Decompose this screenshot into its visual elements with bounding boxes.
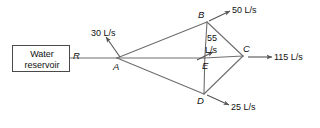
node-label-a: A [113,62,119,72]
reservoir-line-2: reservoir [24,60,59,71]
node-label-r: R [73,51,80,61]
flow-label-d-outflow: 25 L/s [231,102,256,112]
flow-label-e-outflow-value: 55 [207,33,217,43]
node-label-c: C [243,44,250,54]
flow-label-a-outflow: 30 L/s [91,28,116,38]
node-label-b: B [198,10,204,20]
pipe-a-to-d [117,58,204,94]
flow-label-e-outflow-unit: L/s [205,45,217,55]
flow-label-b-outflow: 50 L/s [232,5,257,15]
node-label-e: E [202,61,208,71]
outflow-arrow-d [207,95,229,105]
pipe-a-to-b [117,22,207,58]
reservoir-line-1: Water [30,49,54,60]
flow-label-c-outflow: 115 L/s [274,52,303,62]
outflow-arrow-b [209,11,230,21]
outflow-arrow-a [106,37,120,57]
water-reservoir-box: Water reservoir [12,45,70,72]
pipe-d-to-c [204,56,243,94]
node-label-d: D [197,96,204,106]
pipe-e-to-c [204,56,243,58]
pipe-network-diagram: Water reservoir R A B C D E 30 L/s 50 L/… [0,0,320,128]
water-reservoir-label: Water reservoir [13,46,71,73]
